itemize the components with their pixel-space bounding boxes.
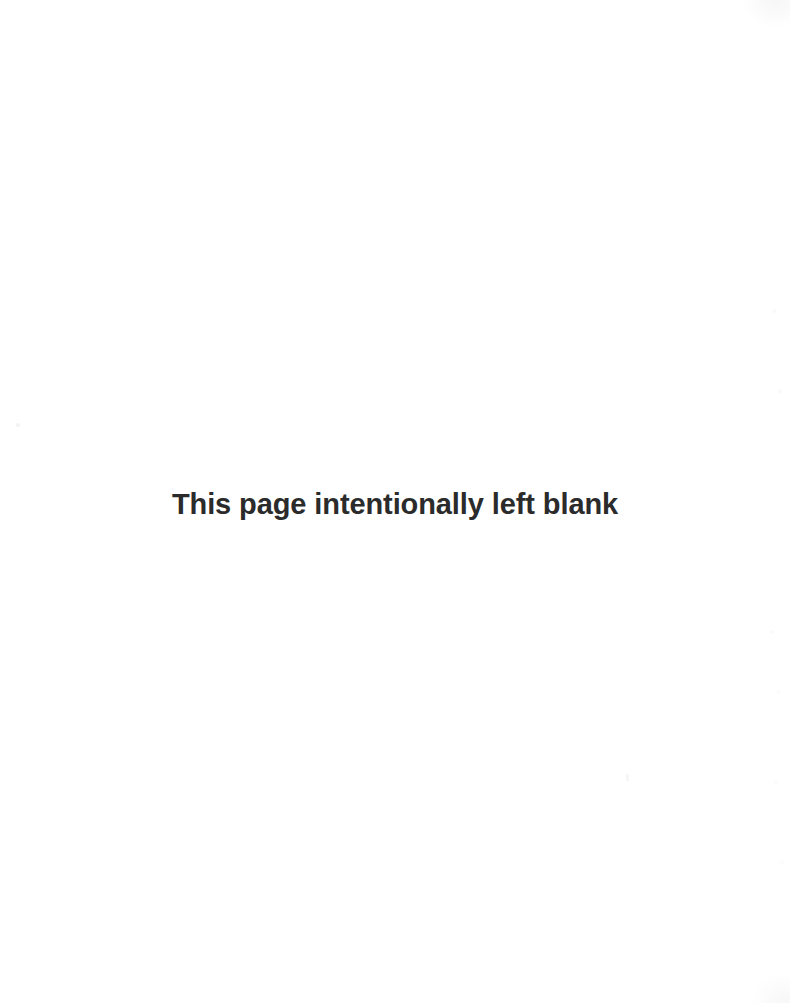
scan-artifact-center-speck: [626, 774, 629, 781]
blank-page-notice-text: This page intentionally left blank: [172, 486, 618, 522]
scan-artifact-left-speck: [16, 423, 20, 427]
document-page: This page intentionally left blank: [0, 0, 790, 1003]
blank-page-notice: This page intentionally left blank: [0, 486, 790, 522]
scan-artifact-bottom-right-corner: [750, 973, 790, 1003]
scan-artifact-top-right-corner: [744, 0, 790, 26]
